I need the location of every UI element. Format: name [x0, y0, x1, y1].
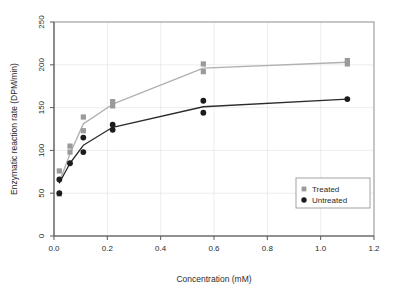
- chart-figure: 0.00.20.40.60.81.01.2 050100150200250 Co…: [0, 0, 396, 298]
- x-axis-title: Concentration (mM): [176, 274, 251, 284]
- data-point-untreated: [80, 135, 86, 141]
- x-tick-label: 0.6: [208, 244, 220, 253]
- data-point-treated: [110, 103, 115, 108]
- data-point-treated: [345, 61, 350, 66]
- y-tick-label: 150: [37, 100, 46, 114]
- legend-label-treated: Treated: [312, 185, 339, 194]
- figure-background: [0, 0, 396, 298]
- y-tick-label: 200: [37, 58, 46, 72]
- data-point-treated: [81, 128, 86, 133]
- x-tick-label: 1.0: [315, 244, 327, 253]
- data-point-treated: [67, 150, 72, 155]
- y-tick-label: 50: [37, 188, 46, 197]
- x-tick-label: 0.2: [102, 244, 114, 253]
- data-point-untreated: [110, 127, 116, 133]
- data-point-untreated: [56, 190, 62, 196]
- legend-marker-square: [302, 187, 307, 192]
- data-point-untreated: [80, 149, 86, 155]
- data-point-treated: [201, 61, 206, 66]
- data-point-treated: [67, 144, 72, 149]
- y-tick-label: 250: [37, 15, 46, 29]
- scatter-plot: 0.00.20.40.60.81.01.2 050100150200250 Co…: [0, 0, 396, 298]
- data-point-untreated: [200, 98, 206, 104]
- x-tick-label: 0.4: [155, 244, 167, 253]
- x-tick-label: 0.0: [48, 244, 60, 253]
- legend-label-untreated: Untreated: [312, 196, 347, 205]
- x-tick-label: 1.2: [368, 244, 380, 253]
- data-point-untreated: [67, 160, 73, 166]
- data-point-treated: [81, 114, 86, 119]
- y-tick-label: 0: [37, 233, 46, 238]
- data-point-treated: [57, 168, 62, 173]
- legend-marker-circle: [301, 197, 306, 202]
- y-axis-title: Enzymatic reaction rate (DPM/min): [9, 63, 19, 195]
- data-point-untreated: [200, 110, 206, 116]
- data-point-treated: [201, 69, 206, 74]
- data-point-untreated: [56, 177, 62, 183]
- data-point-untreated: [110, 122, 116, 128]
- y-tick-label: 100: [37, 143, 46, 157]
- x-tick-label: 0.8: [262, 244, 274, 253]
- data-point-untreated: [344, 96, 350, 102]
- chart-legend: TreatedUntreated: [296, 178, 370, 208]
